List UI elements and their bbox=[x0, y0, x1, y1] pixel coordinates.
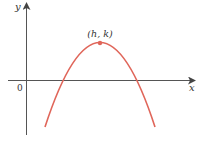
y-axis-label: y bbox=[14, 1, 21, 12]
x-axis-label: x bbox=[189, 82, 195, 93]
parabola-diagram: y x 0 (h, k) bbox=[0, 0, 200, 148]
vertex-point bbox=[98, 41, 102, 45]
parabola-curve bbox=[45, 43, 155, 128]
origin-label: 0 bbox=[17, 83, 23, 93]
vertex-label: (h, k) bbox=[87, 28, 113, 39]
